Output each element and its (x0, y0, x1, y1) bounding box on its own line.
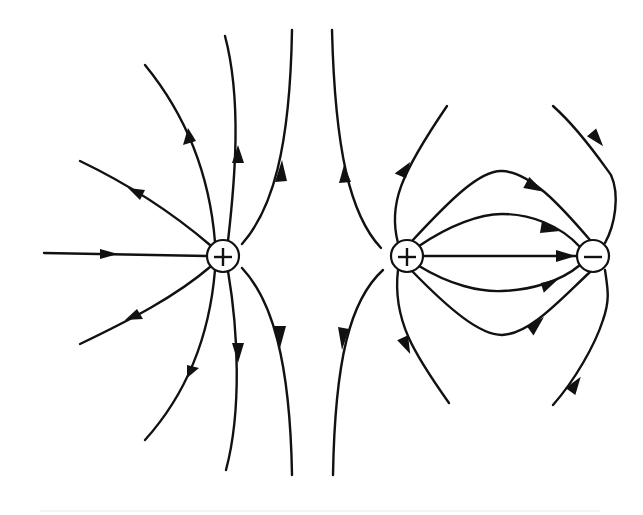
field-line (242, 30, 292, 244)
arrow-icon (128, 188, 145, 200)
arrow-icon (100, 249, 118, 259)
arrow-icon (232, 343, 244, 363)
dipole-field-lines (332, 30, 616, 475)
arrow-icon (183, 128, 196, 145)
field-line (145, 65, 215, 242)
positive-charge-dipole (391, 240, 423, 272)
field-line (412, 271, 590, 335)
field-line (397, 270, 449, 403)
positive-charge-left (207, 240, 239, 272)
arrow-icon (540, 221, 560, 233)
field-line (553, 270, 608, 405)
field-line (44, 253, 207, 256)
field-line (242, 268, 292, 475)
field-line (145, 270, 215, 440)
field-line (553, 106, 616, 243)
field-line (333, 270, 383, 475)
negative-charge-dipole (577, 240, 609, 272)
arrow-icon (556, 250, 576, 262)
field-line (80, 161, 210, 245)
field-line-diagram (0, 0, 643, 515)
field-line (80, 267, 210, 344)
field-line (332, 30, 381, 248)
field-line (225, 36, 236, 241)
field-line (419, 265, 580, 291)
isolated-charge-field-lines (44, 30, 292, 475)
arrow-icon (232, 145, 244, 163)
field-line (226, 271, 237, 470)
arrow-icon (541, 279, 560, 293)
arrow-icon (187, 365, 199, 378)
arrow-icon (339, 165, 351, 183)
field-line (412, 171, 590, 241)
